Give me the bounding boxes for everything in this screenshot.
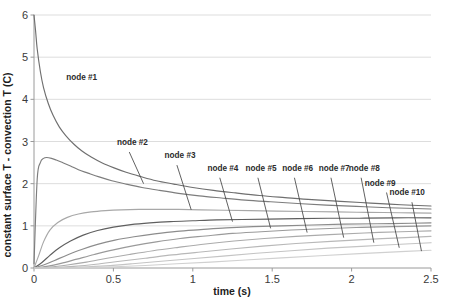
node-label: node #2 [117,138,148,147]
x-tick-label: 0.5 [106,273,121,285]
y-tick-label: 3 [22,136,28,148]
line-chart: 00.511.522.5 0123456 node #1node #2node … [0,0,450,303]
y-tick-label: 1 [22,220,28,232]
x-tick-label: 2.5 [423,273,438,285]
x-tick-label: 1.5 [265,273,280,285]
x-tick-label: 1 [190,273,196,285]
node-label: node #5 [246,164,277,173]
node-label: node #8 [349,164,380,173]
node-label: node #9 [365,179,396,188]
node-label: node #1 [66,73,97,82]
chart-background [0,0,450,303]
chart-figure: 00.511.522.5 0123456 node #1node #2node … [0,0,450,303]
y-tick-label: 6 [22,9,28,21]
x-tick-label: 2 [349,273,355,285]
y-tick-label: 2 [22,178,28,190]
node-label: node #6 [282,164,313,173]
x-axis-title: time (s) [213,285,250,297]
node-label: node #7 [319,164,350,173]
node-label: node #3 [165,151,196,160]
y-tick-label: 4 [22,93,28,105]
y-tick-label: 0 [22,262,28,274]
x-tick-label: 0 [31,273,37,285]
node-label: node #10 [389,188,425,197]
y-axis-title: constant surface T - convection T (C) [1,73,13,258]
y-tick-label: 5 [22,51,28,63]
node-label: node #4 [207,164,238,173]
